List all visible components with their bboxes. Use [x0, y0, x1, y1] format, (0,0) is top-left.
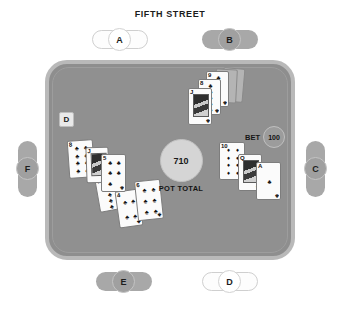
- seat-e[interactable]: E: [96, 266, 152, 297]
- pot-area: 710 POT TOTAL: [150, 139, 212, 193]
- seat-b[interactable]: B: [202, 24, 258, 55]
- bet-area: BET 100: [245, 126, 285, 148]
- card: A ♣ ♣: [256, 162, 281, 200]
- pot-chip: 710: [160, 139, 203, 182]
- seat-f[interactable]: F: [12, 141, 43, 197]
- card-rank-corner: ♣: [206, 117, 210, 124]
- card-rank-corner: ♣: [275, 192, 279, 199]
- seat-a-label: A: [108, 28, 131, 51]
- seat-b-label: B: [218, 28, 241, 51]
- page-title: FIFTH STREET: [0, 9, 340, 19]
- dealer-button[interactable]: D: [59, 112, 74, 127]
- card-rank-corner: ♣: [157, 211, 162, 218]
- seat-c[interactable]: C: [300, 141, 331, 197]
- card: J ♣: [188, 88, 212, 125]
- pot-total-label: POT TOTAL: [150, 184, 212, 193]
- seat-c-label: C: [304, 157, 327, 180]
- card-face-art: [193, 94, 209, 117]
- seat-d[interactable]: D: [202, 266, 258, 297]
- bet-label: BET: [245, 133, 260, 142]
- card-group-seat-b: 9 ♣ ♣♣♣♣♣♣♣♣ 8 ♣ ♣♣♣♣♣♣♣♣ J ♣: [186, 66, 246, 128]
- card: 5 ♣♣♣♣♣ ♣: [101, 154, 126, 192]
- card-group-seat-f: 8 ♣♣♣♣♣♣♣♣ ♣ J ♣ 5 ♣♣♣♣♣ ♣: [68, 140, 130, 195]
- bet-chip: 100: [263, 126, 285, 148]
- seat-f-label: F: [16, 157, 39, 180]
- seat-d-label: D: [218, 270, 241, 293]
- seat-a[interactable]: A: [92, 24, 148, 55]
- card-group-seat-c: 10 ♦♦♦♦♦♦♦♦ ♦ Q ♣ A ♣ ♣: [219, 142, 285, 204]
- card-rank-corner: ♣: [120, 184, 124, 191]
- seat-e-label: E: [112, 270, 135, 293]
